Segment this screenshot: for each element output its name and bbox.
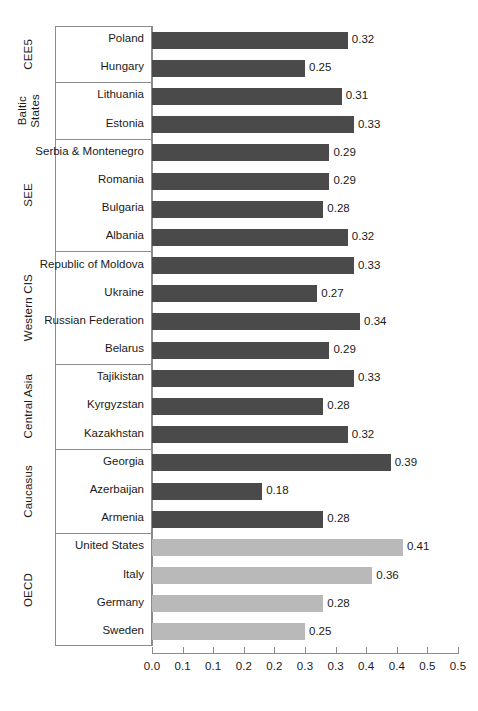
group-label-cee5: CEE5	[0, 26, 56, 82]
bar	[152, 116, 354, 133]
category-label-text: Republic of Moldova	[40, 258, 144, 270]
bar	[152, 426, 348, 443]
group-label-text: OECD	[22, 573, 34, 607]
bar-value-label: 0.28	[327, 202, 349, 214]
category-label-text: Belarus	[105, 342, 144, 354]
category-label-text: Estonia	[106, 117, 144, 129]
x-axis-tick	[458, 647, 459, 654]
category-label-text: Ukraine	[104, 286, 144, 298]
bar-value-label: 0.25	[309, 61, 331, 73]
group-separator	[55, 82, 152, 83]
bar-value-label: 0.28	[327, 512, 349, 524]
group-label-text: Caucasus	[22, 465, 34, 518]
bar	[152, 144, 329, 161]
bar	[152, 370, 354, 387]
x-axis-tick	[397, 647, 398, 654]
bar-value-label: 0.29	[333, 174, 355, 186]
bar-value-label: 0.28	[327, 597, 349, 609]
category-label-text: Russian Federation	[44, 314, 144, 326]
bar-value-label: 0.34	[364, 315, 386, 327]
category-label-text: Serbia & Montenegro	[35, 145, 144, 157]
group-label-oecd: OECD	[0, 533, 56, 646]
category-label-text: Poland	[108, 32, 144, 44]
bar	[152, 511, 323, 528]
category-label-text: Italy	[123, 568, 144, 580]
bar	[152, 285, 317, 302]
group-separator	[55, 139, 152, 140]
bar-value-label: 0.25	[309, 625, 331, 637]
horizontal-bar-chart: CEE5BalticStatesSEEWestern CISCentral As…	[0, 0, 478, 711]
group-separator	[55, 449, 152, 450]
x-axis-tick	[366, 647, 367, 654]
bar	[152, 229, 348, 246]
group-label-central-asia: Central Asia	[0, 364, 56, 449]
bar	[152, 398, 323, 415]
bar	[152, 201, 323, 218]
bar-value-label: 0.18	[266, 484, 288, 496]
bar	[152, 595, 323, 612]
category-label-text: Bulgaria	[102, 201, 144, 213]
x-axis-tick	[336, 647, 337, 654]
category-label-text: United States	[75, 539, 144, 551]
bar	[152, 623, 305, 640]
bar	[152, 342, 329, 359]
bar-value-label: 0.33	[358, 118, 380, 130]
group-separator	[55, 364, 152, 365]
bar	[152, 88, 342, 105]
category-label-text: Kazakhstan	[84, 427, 144, 439]
category-label-text: Sweden	[102, 624, 144, 636]
category-label-text: Lithuania	[97, 88, 144, 100]
category-label-text: Albania	[106, 229, 144, 241]
bar-value-label: 0.29	[333, 343, 355, 355]
group-label-text: States	[29, 94, 41, 128]
group-label-text: SEE	[22, 183, 34, 207]
category-label-text: Hungary	[101, 60, 144, 72]
bar-value-label: 0.28	[327, 399, 349, 411]
bar-value-label: 0.32	[352, 33, 374, 45]
group-label-text: Central Asia	[22, 374, 34, 438]
bar-value-label: 0.27	[321, 287, 343, 299]
category-label-text: Romania	[98, 173, 144, 185]
category-label-text: Armenia	[101, 511, 144, 523]
group-label-text: Western CIS	[22, 274, 34, 341]
group-separator	[55, 251, 152, 252]
bar	[152, 60, 305, 77]
group-label-text: Baltic	[16, 96, 28, 125]
bar-value-label: 0.32	[352, 428, 374, 440]
group-separator	[55, 533, 152, 534]
bar	[152, 257, 354, 274]
x-axis-tick	[213, 647, 214, 654]
group-label-text: CEE5	[22, 39, 34, 70]
x-axis-tick	[305, 647, 306, 654]
group-label-baltic-states: BalticStates	[0, 82, 56, 138]
bar-value-label: 0.36	[376, 569, 398, 581]
bar	[152, 32, 348, 49]
group-label-caucasus: Caucasus	[0, 449, 56, 534]
bar	[152, 483, 262, 500]
bar-value-label: 0.41	[407, 540, 429, 552]
bar	[152, 454, 391, 471]
category-label-text: Azerbaijan	[90, 483, 144, 495]
bar-value-label: 0.39	[395, 456, 417, 468]
bar	[152, 567, 372, 584]
bar	[152, 173, 329, 190]
category-label-text: Tajikistan	[97, 370, 144, 382]
bar-value-label: 0.29	[333, 146, 355, 158]
x-axis-tick	[183, 647, 184, 654]
bar-value-label: 0.33	[358, 371, 380, 383]
bar	[152, 539, 403, 556]
bar-value-label: 0.33	[358, 259, 380, 271]
x-axis-tick	[244, 647, 245, 654]
bar-value-label: 0.31	[346, 89, 368, 101]
category-label-text: Georgia	[103, 455, 144, 467]
x-axis-tick	[152, 647, 153, 654]
bar	[152, 313, 360, 330]
category-label-text: Kyrgyzstan	[87, 398, 144, 410]
x-axis-tick	[274, 647, 275, 654]
x-axis-tick	[427, 647, 428, 654]
category-label-text: Germany	[97, 596, 144, 608]
x-axis-tick-label: 0.5	[438, 660, 478, 672]
bar-value-label: 0.32	[352, 230, 374, 242]
